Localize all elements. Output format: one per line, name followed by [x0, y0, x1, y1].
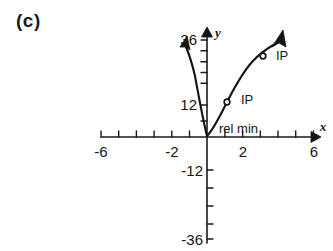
panel-label: (c) — [16, 10, 41, 32]
y-axis-variable-label: y — [213, 25, 221, 40]
graph-canvas: -6 -2 2 6 x 36 12 -12 -36 — [0, 0, 333, 251]
x-label--2: -2 — [165, 143, 178, 160]
x-label-6: 6 — [310, 143, 318, 160]
figure-container: (c) -6 -2 2 6 x — [0, 0, 333, 251]
ip-label-lower: IP — [241, 92, 253, 107]
x-axis-variable-label: x — [319, 119, 327, 134]
ip-label-upper: IP — [276, 48, 288, 63]
x-label--6: -6 — [94, 143, 107, 160]
x-axis-group: -6 -2 2 6 x — [94, 119, 326, 160]
y-label--12: -12 — [181, 162, 203, 179]
y-axis-arrow-icon — [202, 27, 213, 37]
curve-right-arrow-icon — [272, 30, 286, 47]
inflection-point-marker-lower — [224, 99, 230, 105]
rel-min-label: rel min — [219, 121, 258, 136]
y-label--36: -36 — [181, 231, 203, 248]
curve-left-branch — [186, 47, 207, 136]
y-label-12: 12 — [180, 96, 197, 113]
inflection-point-marker-upper — [260, 53, 266, 59]
x-label-2: 2 — [239, 143, 247, 160]
